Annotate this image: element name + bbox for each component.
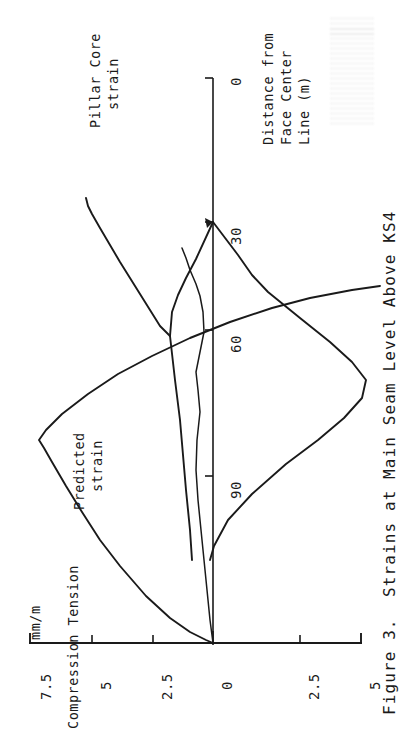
- distance-axis-title-line3: Line (m): [295, 76, 315, 145]
- series-predicted-strain-near-axis: [182, 248, 213, 643]
- strain-tick-label-2p5-tension: 2.5: [304, 673, 324, 700]
- distance-axis-title-line1: Distance from: [259, 33, 279, 145]
- series-tension-lobe-path: [210, 222, 366, 560]
- distance-axis: [205, 78, 213, 645]
- strain-tick-label-7p5: 7.5: [36, 673, 56, 700]
- strain-tick-label-0: 0: [217, 681, 237, 690]
- figure-container: mm/m 7.5 5 2.5 0 2.5 5 Compression Tensi…: [0, 0, 406, 737]
- strain-axis-unit-label: mm/m: [26, 605, 46, 640]
- series-label-pillar-core-line2: strain: [104, 58, 124, 110]
- series-label-predicted-line2: strain: [88, 440, 108, 492]
- series-pillar-core-strain-upper-limb: [86, 198, 170, 336]
- figure-caption: Figure 3. Strains at Main Seam Level Abo…: [378, 211, 401, 715]
- distance-axis-title-line2: Face Center: [277, 50, 297, 145]
- plot-area: [0, 0, 406, 737]
- strain-tick-label-2p5-compression: 2.5: [157, 673, 177, 700]
- series-label-predicted-line1: Predicted: [70, 432, 90, 510]
- distance-tick-label-0: 0: [226, 77, 246, 86]
- distance-tick-label-30: 30: [226, 227, 246, 245]
- compression-tension-label: Compression Tension: [64, 565, 84, 729]
- distance-tick-label-60: 60: [226, 335, 246, 353]
- strain-tick-label-5-compression: 5: [96, 681, 116, 690]
- series-label-pillar-core-line1: Pillar Core: [86, 33, 106, 128]
- distance-tick-label-90: 90: [226, 481, 246, 499]
